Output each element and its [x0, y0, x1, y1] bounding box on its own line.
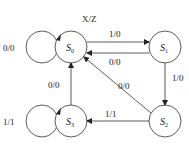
- state-s1: [149, 31, 181, 63]
- label-s2-s0: 0/0: [118, 81, 130, 91]
- self-loop-s3: [26, 105, 58, 137]
- legend-label: X/Z: [82, 14, 97, 24]
- label-s0-self: 0/0: [3, 43, 15, 53]
- label-s1-s2: 1/0: [172, 73, 184, 83]
- self-loop-s0: [26, 31, 58, 63]
- state-diagram: S0 S1 S2 S3 X/Z 0/0 1/0 0/0 1/0 0/0 1/1 …: [0, 0, 189, 144]
- label-s0-s1: 1/0: [109, 29, 121, 39]
- label-s2-s3: 1/1: [105, 109, 117, 119]
- label-s3-s0: 0/0: [48, 80, 60, 90]
- label-s1-s0: 0/0: [109, 57, 121, 67]
- state-s2: [149, 105, 181, 137]
- label-s3-self: 1/1: [3, 117, 15, 127]
